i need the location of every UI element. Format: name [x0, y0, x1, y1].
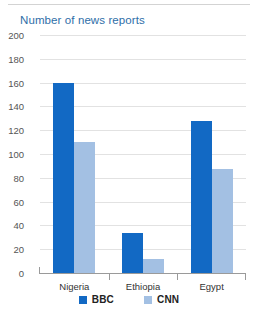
x-axis-tick — [109, 273, 110, 280]
legend-item-cnn[interactable]: CNN — [144, 294, 179, 305]
top-divider — [8, 4, 250, 5]
y-axis-tick-label: 20 — [0, 244, 24, 255]
x-axis-label-egypt: Egypt — [172, 281, 252, 292]
legend-label: CNN — [157, 294, 179, 305]
bar-cnn-nigeria[interactable] — [74, 142, 95, 273]
y-axis-tick-label: 200 — [0, 30, 24, 41]
bar-chart-figure: Number of news reports 02040608010012014… — [0, 0, 258, 318]
y-axis-tick-label: 60 — [0, 196, 24, 207]
y-axis-tick-label: 180 — [0, 53, 24, 64]
plot-area: 020406080100120140160180200NigeriaEthiop… — [40, 35, 246, 273]
chart-title: Number of news reports — [20, 14, 145, 26]
legend-swatch-bbc-icon — [79, 296, 87, 304]
y-axis-tick-label: 40 — [0, 220, 24, 231]
y-axis-tick-label: 120 — [0, 125, 24, 136]
bar-cnn-ethiopia[interactable] — [143, 259, 164, 273]
bar-bbc-nigeria[interactable] — [53, 83, 74, 273]
gridline-0 — [40, 273, 246, 274]
x-axis-tick — [177, 273, 178, 280]
y-axis-tick-label: 80 — [0, 172, 24, 183]
chart-legend: BBCCNN — [0, 294, 258, 305]
legend-label: BBC — [92, 294, 114, 305]
bar-bbc-egypt[interactable] — [191, 121, 212, 273]
y-axis-tick-label: 100 — [0, 149, 24, 160]
y-axis-tick-label: 160 — [0, 77, 24, 88]
legend-item-bbc[interactable]: BBC — [79, 294, 114, 305]
bar-group-nigeria — [53, 35, 95, 273]
bar-group-ethiopia — [122, 35, 164, 273]
bar-group-egypt — [191, 35, 233, 273]
x-axis-end-tick — [245, 273, 246, 280]
bar-bbc-ethiopia[interactable] — [122, 233, 143, 273]
legend-swatch-cnn-icon — [144, 296, 152, 304]
y-axis-tick-label: 140 — [0, 101, 24, 112]
y-axis-tick-label: 0 — [0, 268, 24, 279]
bar-cnn-egypt[interactable] — [212, 169, 233, 273]
